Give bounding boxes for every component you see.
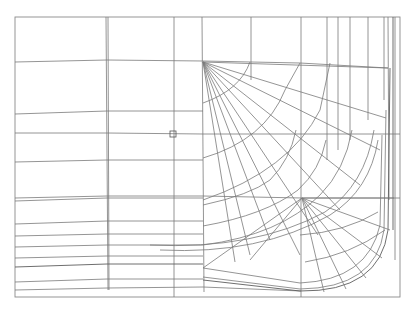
- fan-hub-1: [203, 62, 388, 262]
- corner-curves: [150, 68, 390, 291]
- wireframe-canvas[interactable]: [0, 0, 415, 311]
- fan-hub-2: [203, 198, 394, 292]
- cad-wireframe-viewport[interactable]: [0, 0, 415, 311]
- horizontal-grid-lines: [15, 60, 400, 291]
